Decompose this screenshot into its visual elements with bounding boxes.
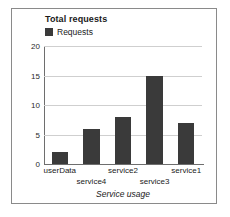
x-axis-tick-label: service2: [108, 166, 138, 175]
chart-panel: Total requests Requests 05101520 userDat…: [11, 8, 217, 204]
bar: [115, 117, 131, 164]
legend-label-requests: Requests: [57, 27, 93, 37]
y-axis-tick-label: 10: [31, 101, 40, 110]
bar: [52, 152, 68, 164]
x-axis-tick-label: userData: [44, 166, 76, 175]
y-axis-tick-label: 5: [36, 130, 40, 139]
y-axis-tick-label: 20: [31, 42, 40, 51]
x-axis-tick-label: service3: [140, 177, 170, 186]
gridline: [44, 76, 202, 77]
x-axis-tick-labels: userDataservice4service2service3service1: [44, 166, 202, 190]
plot-area: 05101520: [44, 46, 202, 164]
x-axis-title: Service usage: [44, 189, 202, 199]
chart-legend: Requests: [45, 27, 93, 37]
legend-swatch-requests-icon: [45, 28, 53, 36]
bar: [83, 129, 99, 164]
bar: [178, 123, 194, 164]
y-axis-tick-label: 15: [31, 71, 40, 80]
gridline: [44, 46, 202, 47]
x-axis-tick-label: service1: [171, 166, 201, 175]
x-axis-tick-label: service4: [76, 177, 106, 186]
x-axis-line: [44, 164, 204, 165]
bar: [146, 76, 162, 165]
gridline: [44, 105, 202, 106]
y-axis-tick-label: 0: [36, 160, 40, 169]
chart-title: Total requests: [45, 14, 107, 24]
